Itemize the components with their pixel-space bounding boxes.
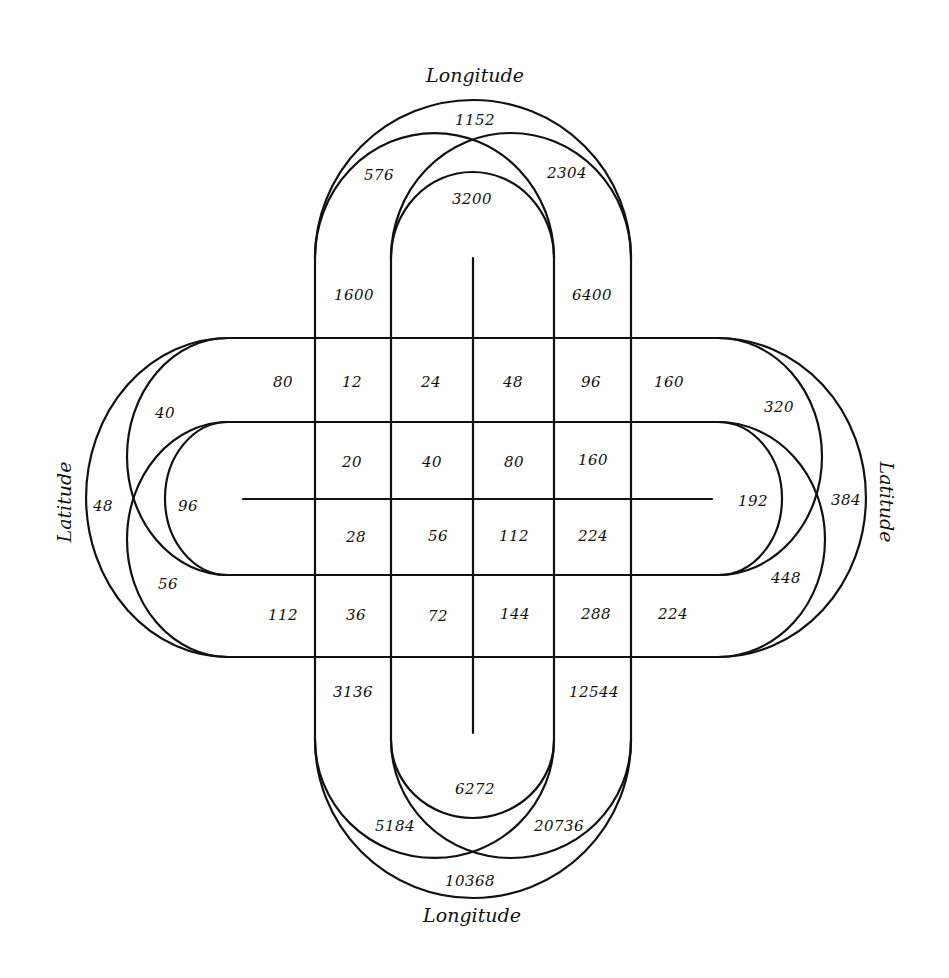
- value-grid-r4-c4: 144: [500, 605, 530, 623]
- value-bottom-inner: 6272: [455, 780, 495, 798]
- value-grid-r4-c2: 36: [346, 606, 366, 624]
- value-grid-r4-c5: 288: [580, 605, 611, 623]
- label-top-longitude: Longitude: [425, 64, 524, 86]
- value-grid-r3-c5: 224: [577, 527, 608, 545]
- value-top-left: 576: [364, 166, 394, 184]
- value-grid-r3-c3: 56: [428, 527, 448, 545]
- value-grid-r1-c3: 24: [420, 373, 441, 391]
- value-grid-r1-c2: 12: [342, 373, 362, 391]
- value-grid-r4-c1: 112: [268, 606, 298, 624]
- value-grid-r1-c1: 80: [273, 373, 293, 391]
- value-left-outer: 48: [92, 497, 113, 515]
- value-left-inner: 96: [178, 497, 198, 515]
- value-top-inner: 3200: [452, 190, 492, 208]
- value-grid-r2-c2: 20: [341, 453, 362, 471]
- value-top-arm-left: 1600: [334, 286, 374, 304]
- value-top-outer: 1152: [455, 111, 495, 129]
- value-grid-r4-c6: 224: [657, 605, 688, 623]
- value-bottom-arm-left: 3136: [333, 683, 373, 701]
- value-grid-r4-c3: 72: [428, 607, 448, 625]
- value-grid-r1-c6: 160: [654, 373, 684, 391]
- value-top-right: 2304: [546, 164, 587, 182]
- value-grid-r2-c3: 40: [421, 453, 442, 471]
- value-grid-r1-c4: 48: [502, 373, 523, 391]
- value-grid-r3-c2: 28: [345, 528, 366, 546]
- value-grid-r1-c5: 96: [581, 373, 601, 391]
- value-bottom-arm-right: 12544: [569, 683, 619, 701]
- value-grid-r3-c4: 112: [499, 527, 529, 545]
- value-left-lower: 56: [158, 575, 178, 593]
- center-axes: [243, 258, 712, 733]
- latitude-longitude-diagram: Longitude Longitude Latitude Latitude 11…: [0, 0, 949, 978]
- value-right-outer: 384: [831, 491, 861, 509]
- value-grid-r2-c4: 80: [504, 453, 524, 471]
- value-left-upper: 40: [154, 404, 175, 422]
- value-top-arm-right: 6400: [572, 286, 612, 304]
- value-right-inner: 192: [738, 492, 768, 510]
- label-left-latitude: Latitude: [53, 462, 75, 544]
- value-bottom-outer: 10368: [445, 872, 495, 890]
- value-right-upper: 320: [764, 398, 794, 416]
- value-bottom-right: 20736: [533, 817, 584, 835]
- label-right-latitude: Latitude: [876, 461, 898, 543]
- value-bottom-left: 5184: [375, 817, 415, 835]
- label-bottom-longitude: Longitude: [422, 904, 521, 926]
- value-right-lower: 448: [770, 569, 801, 587]
- value-grid-r2-c5: 160: [578, 451, 608, 469]
